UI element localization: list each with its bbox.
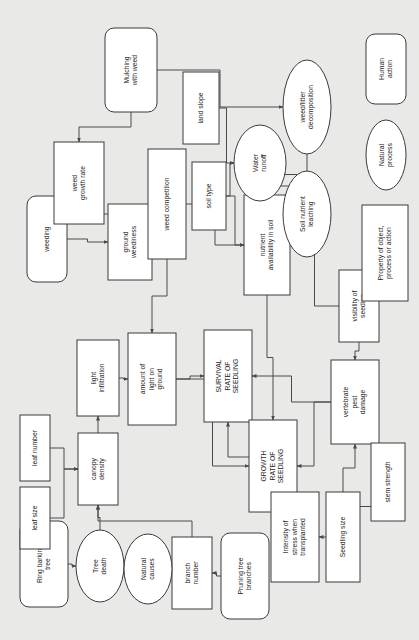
svg-text:nutrient: nutrient: [259, 234, 266, 257]
node-water-runoff: Waterrunoff: [234, 125, 286, 201]
svg-text:with weed: with weed: [131, 55, 138, 86]
svg-text:Intensity of: Intensity of: [282, 520, 290, 553]
svg-text:runoff: runoff: [260, 154, 267, 171]
svg-text:stress when: stress when: [291, 519, 298, 555]
svg-text:transplanted: transplanted: [299, 518, 307, 556]
node-amount-of-light: amount oflight onground: [128, 333, 176, 425]
node-natural-causes: Naturalcauses: [124, 534, 172, 604]
svg-text:ground: ground: [122, 231, 130, 252]
svg-text:tree: tree: [44, 558, 51, 570]
svg-text:number: number: [192, 561, 199, 585]
node-canopy-density: canopydensity: [78, 433, 118, 505]
svg-text:leaching: leaching: [307, 201, 315, 227]
svg-text:RATE OF: RATE OF: [224, 362, 231, 391]
svg-text:ground: ground: [156, 368, 164, 389]
node-leaf-number: leaf number: [20, 415, 50, 481]
edge-ring-barking-tree-to-tree-death: [68, 564, 76, 566]
svg-text:weed/litter: weed/litter: [299, 91, 306, 124]
svg-text:light on: light on: [148, 368, 156, 390]
flowchart-svg: Mulchingwith weedweedingRing barkingtree…: [0, 0, 419, 640]
svg-text:Tree: Tree: [92, 559, 99, 573]
node-stem-strength: stem strength: [371, 443, 405, 521]
svg-text:branch: branch: [184, 562, 191, 583]
edge-weed-competition-to-amount-of-light: [152, 259, 167, 333]
node-mulching-with-weed: Mulchingwith weed: [105, 28, 157, 112]
node-tree-death: Treedeath: [76, 530, 124, 602]
svg-text:Natural: Natural: [378, 144, 385, 166]
svg-text:light: light: [90, 372, 98, 385]
edge-leaf-number-to-canopy-density: [50, 448, 78, 469]
svg-text:weediness: weediness: [130, 225, 137, 259]
svg-text:stem strength: stem strength: [384, 461, 392, 502]
edge-light-infiltration-to-amount-of-light: [119, 378, 128, 379]
svg-text:land slope: land slope: [197, 92, 205, 123]
legend-layer: HumanactionNaturalprocessProperty of obj…: [362, 34, 408, 301]
edge-land-slope-to-water-runoff: [219, 108, 234, 163]
svg-text:weed competition: weed competition: [163, 177, 171, 231]
edge-vertebrate-pest-damage-to-survival-rate-of-seedling: [252, 376, 331, 402]
node-ground-weediness: groundweediness: [108, 204, 152, 280]
svg-text:canopy: canopy: [90, 457, 98, 480]
svg-text:Mulching: Mulching: [123, 56, 131, 83]
svg-text:process or action: process or action: [385, 227, 393, 279]
svg-text:weeding: weeding: [43, 226, 51, 253]
node-weed-competition: weed competition: [148, 149, 186, 259]
svg-text:Human: Human: [378, 58, 385, 80]
svg-text:leaf size: leaf size: [31, 505, 38, 530]
edge-mulching-with-weed-to-weed-growth-rate: [79, 112, 131, 142]
svg-text:growth rate: growth rate: [79, 166, 87, 200]
svg-text:Seedling size: Seedling size: [339, 517, 347, 558]
svg-text:death: death: [100, 557, 107, 574]
svg-text:damage: damage: [359, 389, 367, 414]
legend-property: Property of object,process or action: [362, 205, 408, 301]
svg-text:Water: Water: [252, 153, 259, 172]
edge-soil-type-to-water-runoff: [226, 163, 234, 196]
svg-text:Property of object,: Property of object,: [377, 225, 385, 280]
svg-text:decomposition: decomposition: [307, 85, 315, 129]
edge-seedling-size-to-vertebrate-pest-damage: [343, 444, 355, 492]
node-soil-nutrient-leaching: Soil nutrientleaching: [283, 171, 331, 257]
node-intensity-of-stress: Intensity ofstress whentransplanted: [271, 492, 319, 582]
node-light-infiltration: lightinfiltration: [77, 340, 119, 416]
edge-branch-number-to-canopy-density: [98, 505, 192, 537]
node-vertebrate-pest-damage: vertebratepestdamage: [331, 360, 379, 444]
svg-text:Ring barking: Ring barking: [36, 545, 44, 583]
node-seedling-size: Seedling size: [326, 492, 360, 582]
edge-mulching-with-weed-to-weed-litter-decomposition: [157, 70, 283, 107]
legend-natural-process: Naturalprocess: [366, 120, 406, 190]
svg-text:Pruning tree: Pruning tree: [237, 557, 245, 594]
svg-text:vertebrate: vertebrate: [342, 386, 349, 417]
edge-nutrient-availability-to-growth-rate-of-seedling: [267, 295, 273, 420]
node-land-slope: land slope: [183, 72, 219, 144]
edge-weeding-to-ground-weediness: [67, 239, 108, 242]
svg-text:action: action: [386, 60, 393, 78]
svg-text:causes: causes: [148, 558, 155, 580]
diagram-canvas: Mulchingwith weedweedingRing barkingtree…: [0, 0, 419, 640]
svg-text:leaf number: leaf number: [31, 429, 38, 466]
edge-leaf-size-to-canopy-density: [50, 469, 78, 518]
svg-text:visibility of: visibility of: [351, 290, 359, 321]
svg-text:density: density: [98, 458, 106, 480]
svg-text:Soil nutrient: Soil nutrient: [299, 196, 306, 232]
svg-text:SEEDLING: SEEDLING: [277, 449, 284, 483]
node-weed-growth-rate: weedgrowth rate: [54, 142, 104, 224]
edge-pruning-tree-branches-to-branch-number: [212, 573, 221, 576]
svg-text:infiltration: infiltration: [98, 363, 105, 392]
svg-text:SEEDLING: SEEDLING: [232, 359, 239, 393]
nodes-layer: Mulchingwith weedweedingRing barkingtree…: [20, 28, 405, 619]
node-branch-number: branchnumber: [172, 537, 212, 609]
node-pruning-tree-branches: Pruning treebranches: [221, 533, 269, 619]
svg-text:GROWTH: GROWTH: [260, 450, 267, 481]
node-soil-type: soil type: [192, 162, 226, 230]
svg-text:availability in soil: availability in soil: [267, 219, 275, 270]
node-survival-rate-of-seedling: SURVIVALRATE OFSEEDLING: [204, 330, 252, 422]
svg-text:weed: weed: [71, 175, 78, 192]
svg-text:amount of: amount of: [139, 364, 146, 394]
node-leaf-size: leaf size: [20, 487, 50, 549]
edge-soil-type-to-nutrient-availability: [226, 196, 244, 245]
svg-text:pest: pest: [351, 395, 359, 408]
svg-text:soil type: soil type: [205, 183, 213, 208]
svg-text:SURVIVAL: SURVIVAL: [215, 359, 222, 392]
node-weed-litter-decomposition: weed/litterdecomposition: [283, 60, 331, 154]
legend-human-action: Humanaction: [366, 34, 406, 104]
